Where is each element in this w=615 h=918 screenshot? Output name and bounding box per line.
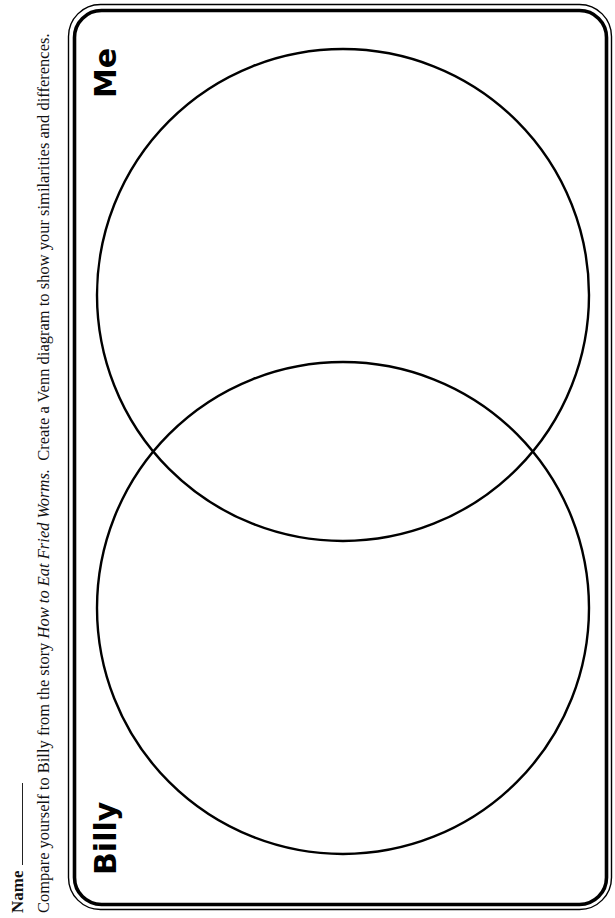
billy-label: Billy (89, 802, 123, 875)
circle-billy[interactable] (97, 362, 589, 854)
me-label: Me (89, 48, 123, 98)
venn-diagram (0, 0, 615, 918)
circle-me[interactable] (97, 49, 589, 541)
